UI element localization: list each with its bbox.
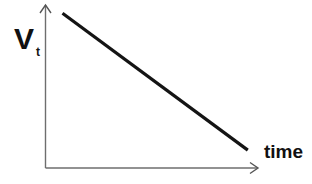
- x-axis-label: time: [264, 142, 303, 161]
- series-line-vt: [63, 13, 248, 150]
- y-axis-label: V: [14, 24, 34, 54]
- y-axis-label-subscript: t: [36, 46, 40, 58]
